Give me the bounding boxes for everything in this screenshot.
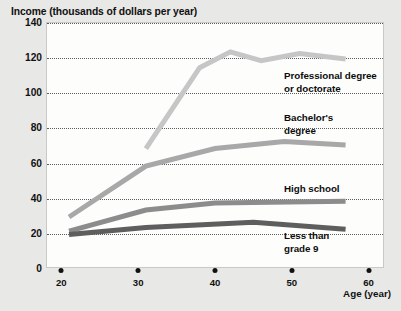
y-tick-label-100: 100	[8, 87, 42, 98]
x-tick-marker-20	[59, 268, 64, 273]
x-tick-marker-30	[136, 268, 141, 273]
series-label-professional-degree: Professional degree or doctorate	[284, 70, 377, 95]
y-tick-label-20: 20	[8, 227, 42, 238]
x-tick-label-30: 30	[133, 277, 144, 288]
y-tick-label-0: 0	[8, 263, 42, 274]
chart-title: Income (thousands of dollars per year)	[11, 6, 197, 17]
x-tick-label-40: 40	[210, 277, 221, 288]
series-label-less-than-grade-9: Less than grade 9	[284, 230, 329, 255]
x-axis-title: Age (year)	[343, 288, 391, 299]
y-tick-label-40: 40	[8, 192, 42, 203]
y-tick-label-140: 140	[8, 17, 42, 28]
x-axis: 2030405060	[46, 268, 384, 298]
x-tick-label-50: 50	[286, 277, 297, 288]
y-tick-label-120: 120	[8, 52, 42, 63]
x-tick-label-20: 20	[56, 277, 67, 288]
x-tick-marker-40	[213, 268, 218, 273]
x-tick-marker-50	[289, 268, 294, 273]
series-layer	[46, 22, 384, 268]
series-label-high-school: High school	[284, 183, 340, 196]
series-label-bachelors-degree: Bachelor's degree	[284, 112, 333, 137]
y-tick-label-60: 60	[8, 157, 42, 168]
income-by-age-chart: Income (thousands of dollars per year) 0…	[0, 0, 401, 311]
x-tick-marker-60	[366, 268, 371, 273]
y-axis: 020406080100120140	[4, 22, 42, 268]
x-tick-label-60: 60	[363, 277, 374, 288]
y-tick-label-80: 80	[8, 122, 42, 133]
